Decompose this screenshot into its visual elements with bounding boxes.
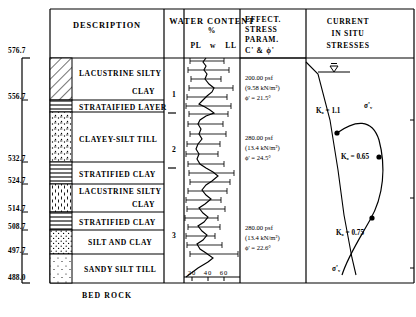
elevation-label-2: 532.7 xyxy=(8,154,26,163)
elevation-label-4: 514.7 xyxy=(8,204,26,213)
elevation-label-3: 524.7 xyxy=(8,176,26,185)
soil-profile-strip xyxy=(50,58,72,283)
header-water-content: WATER CONTENT xyxy=(169,17,254,26)
layer-pattern-stratified-clay-1 xyxy=(50,162,72,184)
sample-number-2: 3 xyxy=(172,231,176,240)
esp-0-phi: ϕ' = 21.5° xyxy=(245,94,271,101)
esp-2-psf: 280.00 psf xyxy=(245,224,274,231)
layer-label-4b: CLAY xyxy=(132,200,155,209)
layer-label-6: SILT AND CLAY xyxy=(88,238,152,247)
layer-label-7: SANDY SILT TILL xyxy=(84,265,156,274)
layer-pattern-strataified-layer xyxy=(50,100,72,112)
layer-pattern-stratified-clay-2 xyxy=(50,212,72,230)
esp-0-si: (9.58 kN/m²) xyxy=(245,84,280,92)
layer-label-3: STRATIFIED CLAY xyxy=(79,170,156,179)
k0-label-top: K₀ = 1.1 xyxy=(316,107,341,115)
bedrock-label: BED ROCK xyxy=(82,291,132,300)
log-canvas: DESCRIPTION WATER CONTENT % PL w LL EFFE… xyxy=(0,0,416,317)
layer-label-1: STRATAIFIED LAYER xyxy=(79,103,167,112)
data-point-k0-mid xyxy=(376,154,381,159)
header-effect: EFFECT. xyxy=(245,15,281,24)
layer-label-2: CLAYEY-SILT TILL xyxy=(79,135,157,144)
k0-label-mid: K₀ = 0.65 xyxy=(341,153,369,161)
esp-1-phi: ϕ' = 24.5° xyxy=(245,154,271,161)
layer-pattern-lacustrine-silty-clay xyxy=(50,58,72,100)
k0-label-bot: K₀ = 0.75 xyxy=(336,229,364,237)
header-in-situ: IN SITU xyxy=(332,29,365,38)
sigma-v-eff-label: σ'ᵥ xyxy=(364,102,373,110)
data-point-k0-top xyxy=(334,130,339,135)
borehole-log-figure: DESCRIPTION WATER CONTENT % PL w LL EFFE… xyxy=(0,0,416,317)
layer-pattern-clayey-silt-till xyxy=(50,112,72,162)
sample-number-1: 2 xyxy=(172,145,176,154)
header-stress: STRESS xyxy=(245,25,277,34)
layer-label-5: STRATIFIED CLAY xyxy=(79,218,156,227)
layer-pattern-silt-and-clay xyxy=(50,230,72,254)
label-pl: PL xyxy=(190,41,201,50)
sigma-v-label: σ'ᵥ xyxy=(332,265,341,273)
layer-pattern-sandy-silt-till xyxy=(50,254,72,283)
esp-1-si: (13.4 kN/m²) xyxy=(245,144,280,152)
esp-2-si: (13.4 kN/m²) xyxy=(245,234,280,242)
layer-label-0: LACUSTRINE SILTY xyxy=(79,69,162,78)
esp-1-psf: 280.00 psf xyxy=(245,134,274,141)
elevation-label-0: 576.7 xyxy=(8,46,26,55)
esp-2-phi: ϕ' = 22.6° xyxy=(245,244,271,251)
elevation-label-5: 508.7 xyxy=(8,222,26,231)
elevation-label-6: 497.7 xyxy=(8,246,26,255)
header-description: DESCRIPTION xyxy=(73,21,141,30)
sample-number-0: 1 xyxy=(172,90,176,99)
layer-label-0b: CLAY xyxy=(132,87,155,96)
label-ll: LL xyxy=(225,41,237,50)
header-water-content-units: % xyxy=(208,26,216,35)
header-current: CURRENT xyxy=(327,17,369,26)
header-c-phi: C' & ϕ' xyxy=(245,46,274,55)
elevation-label-1: 556.7 xyxy=(8,92,26,101)
esp-0-psf: 200.00 psf xyxy=(245,74,274,81)
layer-label-4: LACUSTRINE SILTY xyxy=(79,187,162,196)
elevation-label-7: 488.0 xyxy=(8,273,26,282)
axis-tick-40: 40 xyxy=(204,269,213,276)
axis-tick-60: 60 xyxy=(220,269,229,276)
axis-tick-20: 20 xyxy=(188,269,197,276)
header-param: PARAM. xyxy=(245,35,279,44)
layer-pattern-lacustrine-silty-clay-2 xyxy=(50,184,72,212)
data-point-k0-bot xyxy=(369,215,374,220)
header-stresses: STRESSES xyxy=(326,41,369,50)
label-w: w xyxy=(210,41,216,50)
